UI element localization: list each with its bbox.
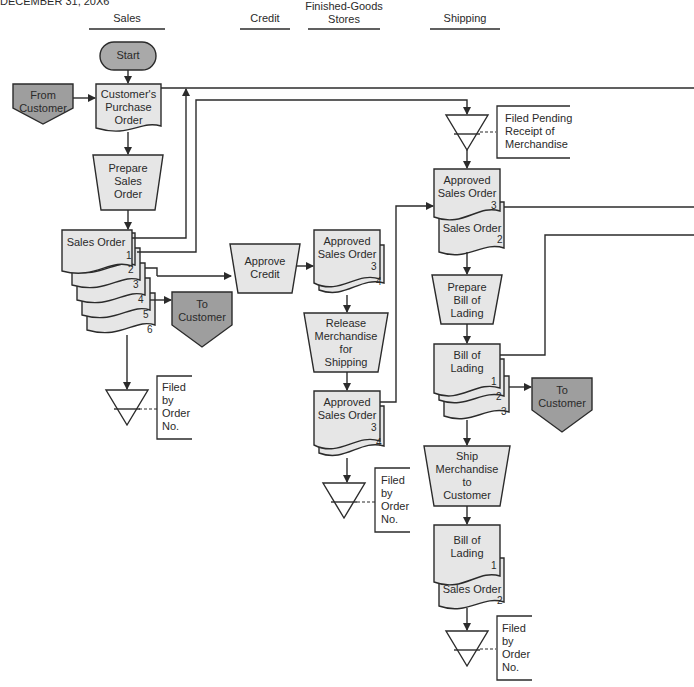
release-line: for [304, 343, 388, 356]
file-note-line: by [381, 487, 409, 500]
pending-note-line: Receipt of [505, 125, 572, 138]
file-note-line: by [162, 394, 190, 407]
file-note-line: by [502, 635, 530, 648]
sales-order-label: Sales Order [62, 236, 130, 249]
prepare-so-line: Order [93, 188, 163, 201]
filed-by-order-shipping-note: Filed by Order No. [502, 622, 530, 674]
final-bol-line: Lading [434, 547, 500, 560]
approved-so-line: Approved [314, 235, 380, 248]
file-sales [106, 390, 148, 425]
ship-line: to [424, 476, 510, 489]
column-header-stores-line1: Finished-Goods [300, 0, 388, 13]
to-customer-line: To [172, 298, 232, 311]
file-note-line: Order [502, 648, 530, 661]
approved-so-top-copy-4: 4 [376, 276, 382, 287]
file-note-line: Order [381, 500, 409, 513]
pending-note-line: Merchandise [505, 138, 572, 151]
prepare-sales-order-label: Prepare Sales Order [93, 162, 163, 201]
approve-credit-line: Approve [230, 255, 300, 268]
release-line: Merchandise [304, 330, 388, 343]
filed-by-order-sales-note: Filed by Order No. [162, 381, 190, 433]
customer-po-line: Order [96, 114, 161, 127]
bol-copy-2: 2 [496, 391, 502, 402]
release-merchandise-label: Release Merchandise for Shipping [304, 317, 388, 369]
column-header-shipping: Shipping [430, 12, 500, 25]
pending-note-line: Filed Pending [505, 112, 572, 125]
prepare-bol-line: Prepare [432, 281, 502, 294]
approve-credit-line: Credit [230, 268, 300, 281]
so-copy-1: 1 [126, 250, 132, 261]
approved-so-bottom-copy-3: 3 [371, 422, 377, 433]
column-header-stores-line2: Stores [300, 13, 388, 26]
approved-so-stores-bottom-label: Approved Sales Order [314, 396, 380, 422]
file-note-line: No. [381, 513, 409, 526]
customer-po-line: Purchase [96, 101, 161, 114]
release-line: Release [304, 317, 388, 330]
column-header-sales: Sales [89, 12, 165, 25]
prepare-bol-label: Prepare Bill of Lading [432, 281, 502, 320]
final-bol-label: Bill of Lading [434, 534, 500, 560]
diagram-date-title: DECEMBER 31, 20X6 [0, 0, 109, 8]
to-customer-line: To [532, 384, 592, 397]
approved-so-shipping-copy: 3 [491, 200, 497, 211]
prepare-bol-line: Lading [432, 307, 502, 320]
ship-merchandise-label: Ship Merchandise to Customer [424, 450, 510, 502]
customer-po-line: Customer's [96, 88, 161, 101]
bol-line: Bill of [434, 349, 500, 362]
from-customer-line: From [13, 89, 73, 102]
approved-so-top-copy-3: 3 [371, 261, 377, 272]
file-stores [323, 483, 365, 518]
to-customer-shipping-label: To Customer [532, 384, 592, 410]
approved-so-line: Sales Order [314, 248, 380, 261]
approve-credit-label: Approve Credit [230, 255, 300, 281]
final-bol-copy: 1 [491, 560, 497, 571]
sales-order-shipping-label: Sales Order [440, 222, 504, 235]
ship-line: Customer [424, 489, 510, 502]
bol-copy-1: 1 [491, 376, 497, 387]
ship-line: Merchandise [424, 463, 510, 476]
column-header-stores: Finished-Goods Stores [300, 0, 388, 26]
so-copy-5: 5 [143, 309, 149, 320]
file-note-line: Filed [502, 622, 530, 635]
from-customer-line: Customer [13, 102, 73, 115]
so-copy-2: 2 [128, 264, 134, 275]
so-copy-3: 3 [133, 279, 139, 290]
file-note-line: No. [502, 661, 530, 674]
filed-by-order-stores-note: Filed by Order No. [381, 474, 409, 526]
final-sales-order-label: Sales Order [440, 583, 504, 596]
column-header-credit: Credit [240, 12, 290, 25]
so-copy-6: 6 [147, 324, 153, 335]
prepare-so-line: Prepare [93, 162, 163, 175]
final-sales-order-copy: 2 [497, 595, 503, 606]
bol-copy-3: 3 [501, 406, 507, 417]
approved-so-line: Sales Order [434, 187, 500, 200]
sales-order-shipping-copy: 2 [497, 234, 503, 245]
file-note-line: No. [162, 420, 190, 433]
approved-so-stores-top-label: Approved Sales Order [314, 235, 380, 261]
start-label: Start [100, 49, 156, 62]
approved-so-line: Approved [434, 174, 500, 187]
to-customer-line: Customer [172, 311, 232, 324]
file-note-line: Filed [381, 474, 409, 487]
final-bol-line: Bill of [434, 534, 500, 547]
bol-line: Lading [434, 362, 500, 375]
prepare-so-line: Sales [93, 175, 163, 188]
approved-so-line: Sales Order [314, 409, 380, 422]
bol-label: Bill of Lading [434, 349, 500, 375]
so-copy-4: 4 [138, 294, 144, 305]
ship-line: Ship [424, 450, 510, 463]
approved-so-line: Approved [314, 396, 380, 409]
file-note-line: Filed [162, 381, 190, 394]
from-customer-label: From Customer [13, 89, 73, 115]
to-customer-line: Customer [532, 397, 592, 410]
filed-pending-note: Filed Pending Receipt of Merchandise [505, 112, 572, 151]
approved-so-bottom-copy-4: 4 [376, 437, 382, 448]
release-line: Shipping [304, 356, 388, 369]
customer-po-label: Customer's Purchase Order [96, 88, 161, 127]
to-customer-sales-label: To Customer [172, 298, 232, 324]
approved-so-shipping-label: Approved Sales Order [434, 174, 500, 200]
file-note-line: Order [162, 407, 190, 420]
prepare-bol-line: Bill of [432, 294, 502, 307]
